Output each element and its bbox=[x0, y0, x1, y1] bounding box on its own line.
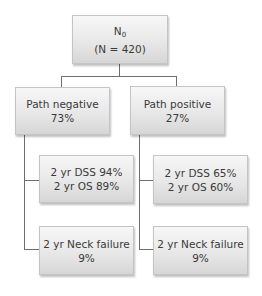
negative-survival-node: 2 yr DSS 94% 2 yr OS 89% bbox=[39, 155, 134, 203]
positive-neck-failure-percent: 9% bbox=[192, 251, 209, 265]
path-negative-percent: 73% bbox=[51, 111, 74, 125]
negative-neck-failure-node: 2 yr Neck failure 9% bbox=[39, 226, 134, 275]
path-positive-percent: 27% bbox=[166, 111, 189, 125]
path-positive-node: Path positive 27% bbox=[130, 86, 225, 135]
positive-os: 2 yr OS 60% bbox=[168, 180, 234, 194]
connector-right-trunk bbox=[139, 135, 140, 250]
path-negative-label: Path negative bbox=[26, 97, 98, 111]
path-positive-label: Path positive bbox=[144, 97, 212, 111]
connector-horizontal bbox=[61, 76, 177, 77]
connector-right-down bbox=[176, 76, 177, 86]
connector-left-trunk bbox=[24, 135, 25, 250]
connector-left-to-survival bbox=[24, 180, 39, 181]
negative-neck-failure-percent: 9% bbox=[78, 251, 95, 265]
root-title: N0 bbox=[114, 24, 126, 42]
connector-right-to-survival bbox=[139, 180, 153, 181]
connector-left-down bbox=[61, 76, 62, 87]
positive-dss: 2 yr DSS 65% bbox=[165, 166, 237, 180]
connector-left-to-neck bbox=[24, 249, 39, 250]
positive-neck-failure-node: 2 yr Neck failure 9% bbox=[153, 226, 248, 275]
positive-survival-node: 2 yr DSS 65% 2 yr OS 60% bbox=[153, 155, 248, 204]
root-node: N0 (N = 420) bbox=[72, 15, 168, 64]
connector-right-to-neck bbox=[139, 249, 153, 250]
negative-neck-failure-label: 2 yr Neck failure bbox=[43, 237, 130, 251]
positive-neck-failure-label: 2 yr Neck failure bbox=[157, 237, 244, 251]
root-count: (N = 420) bbox=[94, 42, 146, 56]
negative-dss: 2 yr DSS 94% bbox=[51, 165, 123, 179]
connector-root-down bbox=[119, 64, 120, 76]
path-negative-node: Path negative 73% bbox=[15, 87, 110, 135]
negative-os: 2 yr OS 89% bbox=[54, 179, 120, 193]
